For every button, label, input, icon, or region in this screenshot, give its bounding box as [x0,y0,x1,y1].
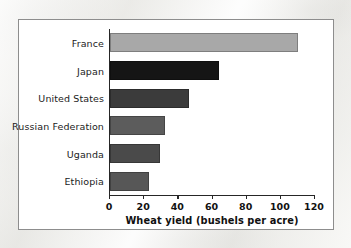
bar-row: Ethiopia [110,172,315,191]
bar-row: Uganda [110,144,315,163]
x-tick [246,195,247,199]
category-label-france: France [72,37,110,48]
bars-layer: France Japan United States Russian Feder… [110,29,315,195]
x-tick [314,195,315,199]
x-tick-label: 60 [205,201,218,212]
bar-row: Japan [110,61,315,80]
category-label-russian-federation: Russian Federation [12,120,110,131]
x-tick [177,195,178,199]
bar-united-states[interactable] [110,89,189,108]
x-tick-label: 0 [106,201,113,212]
x-tick [143,195,144,199]
x-tick-label: 120 [304,201,324,212]
x-tick-label: 100 [270,201,290,212]
y-axis-line [109,29,110,195]
figure-page: France Japan United States Russian Feder… [0,0,351,248]
bar-france[interactable] [110,33,298,52]
plot-area: France Japan United States Russian Feder… [19,20,333,229]
category-label-uganda: Uganda [67,148,110,159]
bar-row: Russian Federation [110,116,315,135]
x-tick [280,195,281,199]
x-tick-label: 80 [239,201,252,212]
category-label-japan: Japan [77,65,110,76]
category-label-united-states: United States [38,93,110,104]
x-tick [109,195,110,199]
chart-panel: France Japan United States Russian Feder… [18,19,334,230]
x-tick-label: 20 [137,201,150,212]
x-tick-label: 40 [171,201,184,212]
bar-row: France [110,33,315,52]
bar-row: United States [110,89,315,108]
bar-uganda[interactable] [110,144,160,163]
x-tick [212,195,213,199]
category-label-ethiopia: Ethiopia [65,176,111,187]
bar-russian-federation[interactable] [110,116,165,135]
bar-japan[interactable] [110,61,219,80]
x-axis-title: Wheat yield (bushels per acre) [109,215,315,226]
bar-ethiopia[interactable] [110,172,149,191]
